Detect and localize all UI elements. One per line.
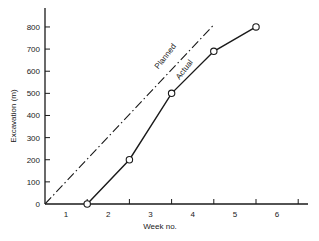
series-line-planned — [45, 25, 214, 204]
data-point-marker — [168, 90, 174, 96]
y-tick-label: 300 — [27, 134, 41, 143]
x-axis-title: Week no. — [143, 222, 177, 231]
data-point-marker — [84, 201, 90, 207]
y-axis-title: Excavation (m) — [9, 89, 18, 143]
x-tick-label: 3 — [148, 210, 153, 219]
x-tick-label: 2 — [106, 210, 111, 219]
x-tick-label: 4 — [190, 210, 195, 219]
y-tick-label: 200 — [27, 156, 41, 165]
y-tick-label: 100 — [27, 178, 41, 187]
data-point-marker — [211, 48, 217, 54]
x-tick-label: 1 — [64, 210, 69, 219]
data-point-marker — [126, 157, 132, 163]
y-tick-label: 0 — [36, 200, 41, 209]
y-tick-label: 600 — [27, 67, 41, 76]
y-tick-label: 800 — [27, 23, 41, 32]
excavation-chart: 0100200300400500600700800123456 PlannedA… — [0, 0, 319, 241]
y-tick-label: 500 — [27, 89, 41, 98]
data-point-marker — [253, 24, 259, 30]
labels: PlannedActual — [153, 42, 195, 81]
series — [45, 24, 259, 207]
series-label-actual: Actual — [174, 58, 195, 81]
x-tick-label: 5 — [233, 210, 238, 219]
x-tick-label: 6 — [275, 210, 280, 219]
axes — [45, 8, 308, 204]
y-tick-label: 700 — [27, 45, 41, 54]
y-tick-label: 400 — [27, 111, 41, 120]
